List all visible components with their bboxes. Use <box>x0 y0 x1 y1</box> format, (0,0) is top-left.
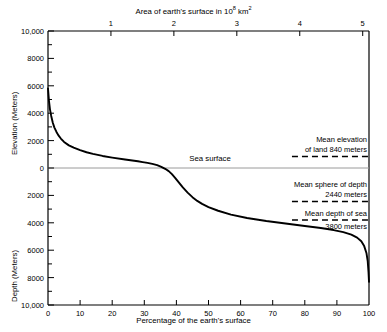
y-tick-label: 8000 <box>2 54 44 63</box>
annotation-line-2: 3800 meters <box>325 222 367 232</box>
x-tick-label-top: 1 <box>109 19 113 28</box>
x-tick-label-top: 5 <box>361 19 365 28</box>
x-tick-label-bottom: 90 <box>333 309 341 318</box>
annotation-mean-depth-of-sea: Mean depth of sea <box>305 209 367 219</box>
y-tick-label: 2000 <box>2 191 44 200</box>
annotation-mean-sphere-of-depth: Mean sphere of depth2440 meters <box>294 180 367 199</box>
x-tick-label-top: 3 <box>235 19 239 28</box>
annotation-line-2: 2440 meters <box>294 190 367 200</box>
y-tick-label: 10,000 <box>2 301 44 310</box>
plot-area <box>0 0 387 332</box>
x-tick-label-bottom: 80 <box>301 309 309 318</box>
annotation-line-1: Mean elevation <box>305 135 367 145</box>
x-tick-label-bottom: 0 <box>46 309 50 318</box>
y-tick-label: 0 <box>2 164 44 173</box>
annotation-line-1: Mean sphere of depth <box>294 180 367 190</box>
annotation-line-1: Mean depth of sea <box>305 209 367 219</box>
annotation-mean-depth-of-sea-value: 3800 meters <box>325 222 367 232</box>
x-tick-label-bottom: 70 <box>269 309 277 318</box>
x-tick-label-bottom: 60 <box>236 309 244 318</box>
y-tick-label: 10,000 <box>2 27 44 36</box>
y-tick-label: 6000 <box>2 82 44 91</box>
x-tick-label-top: 4 <box>298 19 302 28</box>
annotation-line-2: of land 840 meters <box>305 145 367 155</box>
x-tick-label-top: 2 <box>172 19 176 28</box>
y-tick-label: 4000 <box>2 219 44 228</box>
y-tick-label: 4000 <box>2 109 44 118</box>
hypsographic-chart: Area of earth's surface in 108 km2 Perce… <box>0 0 387 332</box>
x-tick-label-bottom: 20 <box>108 309 116 318</box>
x-tick-label-bottom: 50 <box>204 309 212 318</box>
annotation-mean-elevation-of-land: Mean elevationof land 840 meters <box>305 135 367 154</box>
y-tick-label: 6000 <box>2 246 44 255</box>
x-tick-label-bottom: 40 <box>172 309 180 318</box>
x-tick-label-bottom: 30 <box>140 309 148 318</box>
sea-surface-label: Sea surface <box>189 154 231 163</box>
x-tick-label-bottom: 10 <box>76 309 84 318</box>
x-tick-label-bottom: 100 <box>363 309 376 318</box>
y-tick-label: 8000 <box>2 274 44 283</box>
y-tick-label: 2000 <box>2 137 44 146</box>
